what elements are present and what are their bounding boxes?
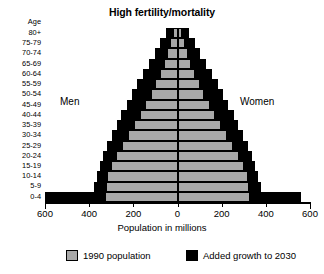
bar-men-1990-population — [151, 89, 178, 99]
bar-men-1990-population — [170, 38, 177, 48]
bar-men-1990-population — [128, 130, 177, 140]
age-label-20to24: 20-24 — [22, 152, 41, 160]
bar-men-1990-population — [167, 48, 177, 58]
x-tick-label: 200 — [214, 208, 230, 219]
bar-men-1990-population — [107, 171, 177, 181]
bar-women-1990-population — [178, 110, 216, 120]
pyramid-row — [45, 69, 310, 79]
bar-men-1990-population — [111, 161, 177, 171]
bar-men-1990-population — [160, 69, 178, 79]
bar-men-1990-population — [122, 141, 177, 151]
legend-swatch-black — [186, 250, 198, 261]
age-label-45to49: 45-49 — [22, 101, 41, 109]
pyramid-row — [45, 110, 310, 120]
age-label-55to59: 55-59 — [22, 80, 41, 88]
bar-women-1990-population — [178, 28, 183, 38]
age-label-25to29: 25-29 — [22, 142, 41, 150]
bar-women-1990-population — [178, 48, 188, 58]
age-label-65to69: 65-69 — [22, 60, 41, 68]
population-pyramid-chart: High fertility/mortality Age 80+75-7970-… — [0, 0, 324, 274]
bar-women-1990-population — [178, 130, 227, 140]
bar-women-1990-population — [178, 182, 250, 192]
label-men: Men — [60, 96, 79, 107]
x-axis-tick — [133, 202, 134, 207]
bar-women-1990-population — [178, 38, 185, 48]
age-label-75to79: 75-79 — [22, 39, 41, 47]
legend-swatch-gray — [66, 250, 78, 261]
age-label-35to39: 35-39 — [22, 121, 41, 129]
bar-women-1990-population — [178, 120, 221, 130]
x-axis-tick-labels: 6004002000200400600 — [0, 208, 324, 221]
age-label-70to74: 70-74 — [22, 49, 41, 57]
pyramid-row — [45, 161, 310, 171]
bar-women-1990-population — [178, 151, 239, 161]
x-axis-tick — [222, 202, 223, 207]
pyramid-row — [45, 38, 310, 48]
bar-women-1990-population — [178, 89, 205, 99]
x-tick-label: 600 — [302, 208, 318, 219]
legend-item-1990-population: 1990 population — [66, 250, 151, 261]
bar-men-1990-population — [116, 151, 177, 161]
x-axis-title: Population in millions — [0, 222, 324, 233]
pyramid-row — [45, 182, 310, 192]
legend-label-1990-population: 1990 population — [83, 250, 151, 261]
pyramid-plot-area — [45, 28, 310, 202]
bar-women-1990-population — [178, 59, 192, 69]
x-tick-label: 600 — [37, 208, 53, 219]
x-axis-tick — [45, 202, 46, 209]
bar-women-1990-population — [178, 141, 233, 151]
bar-men-1990-population — [145, 100, 177, 110]
pyramid-row — [45, 141, 310, 151]
age-label-30to34: 30-34 — [22, 131, 41, 139]
x-tick-label: 0 — [175, 208, 180, 219]
age-label-0to4: 0-4 — [30, 193, 41, 201]
age-label-40to44: 40-44 — [22, 111, 41, 119]
age-label-80plus: 80+ — [28, 29, 41, 37]
pyramid-row — [45, 48, 310, 58]
x-tick-label: 400 — [81, 208, 97, 219]
pyramid-row — [45, 171, 310, 181]
bar-women-1990-population — [178, 161, 244, 171]
age-label-50to54: 50-54 — [22, 90, 41, 98]
x-tick-label: 400 — [258, 208, 274, 219]
x-tick-label: 200 — [125, 208, 141, 219]
age-label-5to9: 5-9 — [30, 182, 41, 190]
label-women: Women — [240, 96, 274, 107]
bar-women-1990-population — [178, 100, 210, 110]
age-label-10to14: 10-14 — [22, 172, 41, 180]
x-axis-tick — [178, 202, 179, 207]
pyramid-row — [45, 59, 310, 69]
bar-women-1990-population — [178, 171, 248, 181]
bar-women-1990-population — [178, 79, 200, 89]
pyramid-row — [45, 28, 310, 38]
age-label-15to19: 15-19 — [22, 162, 41, 170]
bar-men-1990-population — [164, 59, 178, 69]
chart-legend: 1990 population Added growth to 2030 — [0, 250, 324, 266]
bar-men-1990-population — [105, 192, 178, 202]
legend-label-added-growth: Added growth to 2030 — [203, 250, 296, 261]
x-axis-tick — [266, 202, 267, 207]
pyramid-row — [45, 192, 310, 202]
legend-item-added-growth: Added growth to 2030 — [186, 250, 296, 261]
bar-women-1990-population — [178, 192, 251, 202]
x-axis-tick — [310, 202, 311, 209]
x-axis-tick — [89, 202, 90, 207]
bar-men-1990-population — [155, 79, 177, 89]
pyramid-row — [45, 130, 310, 140]
pyramid-row — [45, 151, 310, 161]
pyramid-row — [45, 120, 310, 130]
age-axis-header: Age — [28, 18, 41, 26]
bar-men-1990-population — [106, 182, 178, 192]
age-label-60to64: 60-64 — [22, 70, 41, 78]
bar-women-1990-population — [178, 69, 196, 79]
chart-title: High fertility/mortality — [0, 6, 324, 18]
bar-men-1990-population — [140, 110, 178, 120]
bar-men-1990-population — [134, 120, 177, 130]
pyramid-row — [45, 79, 310, 89]
